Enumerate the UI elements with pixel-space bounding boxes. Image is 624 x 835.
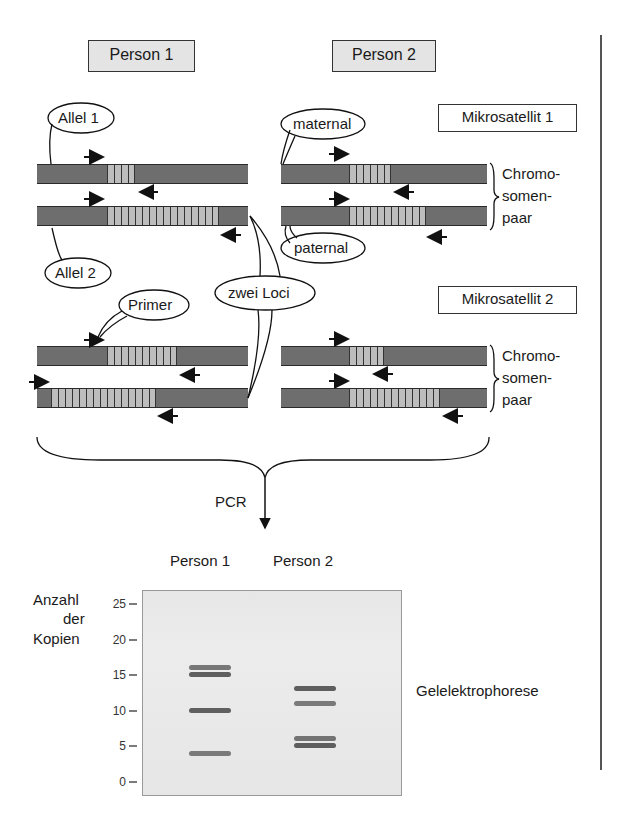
tick-25: 25 [104,597,126,611]
gel-person2-label: Person 2 [273,552,333,569]
callout-allel1: Allel 1 [58,109,99,126]
gel-band-p1-16 [189,665,231,670]
ms2-pair-label-3: paar [502,391,532,408]
gel-process-label: Gelelektrophorese [416,682,539,699]
ms1-pair-label-3: paar [502,209,532,226]
axis-label-2: der [63,610,85,627]
gel-band-p1-10 [189,708,231,713]
pcr-label: PCR [215,493,247,510]
gel-band-p1-15 [189,672,231,677]
axis-ticks [129,604,137,782]
callout-paternal: paternal [294,239,348,256]
ms2-pair-label-1: Chromo- [502,347,560,364]
tick-5: 5 [104,739,126,753]
callout-primer: Primer [128,296,172,313]
big-brace [37,437,489,478]
pair-braces [490,163,499,412]
axis-label-3: Kopien [33,630,80,647]
callout-maternal: maternal [293,115,351,132]
axis-label-1: Anzahl [33,591,79,608]
gel-band-p2-5 [294,743,336,748]
gel-person1-label: Person 1 [170,552,230,569]
tick-15: 15 [104,668,126,682]
ms1-pair-label-1: Chromo- [502,165,560,182]
gel-band-p2-13 [294,686,336,691]
ms1-pair-label-2: somen- [502,187,552,204]
tick-0: 0 [104,775,126,789]
callout-zwei-loci: zwei Loci [228,284,290,301]
gel-band-p2-6 [294,736,336,741]
tick-20: 20 [104,633,126,647]
tick-10: 10 [104,704,126,718]
callout-allel2: Allel 2 [55,264,96,281]
gel-band-p2-11 [294,701,336,706]
gel-plate [142,590,402,796]
gel-band-p1-4 [189,751,231,756]
ms2-pair-label-2: somen- [502,369,552,386]
